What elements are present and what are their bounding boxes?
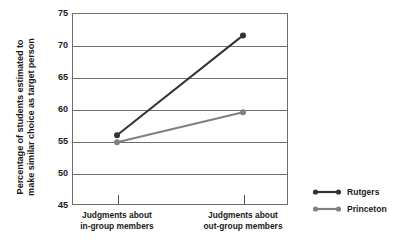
legend-item-rutgers[interactable]: Rutgers bbox=[312, 183, 400, 200]
legend-label-princeton: Princeton bbox=[347, 204, 387, 214]
series-line-rutgers bbox=[117, 35, 243, 135]
legend-line-marker-icon bbox=[312, 203, 342, 215]
legend-label-rutgers: Rutgers bbox=[347, 187, 379, 197]
y-axis-title: Percentage of students estimated to make… bbox=[9, 17, 43, 217]
x-axis-label-in-group-line-2: in-group members bbox=[57, 221, 177, 232]
x-axis-label-out-group: Judgments about out-group members bbox=[183, 210, 303, 232]
y-axis-tick-label-55: 55 bbox=[48, 137, 68, 146]
data-point-rutgers-0 bbox=[114, 132, 120, 138]
y-axis-title-line-2: make similar choice as target person bbox=[26, 38, 38, 196]
legend-line-marker-icon bbox=[312, 186, 342, 198]
x-axis-label-in-group-line-1: Judgments about bbox=[57, 210, 177, 221]
y-axis-tick-label-70: 70 bbox=[48, 41, 68, 50]
data-point-princeton-1 bbox=[240, 109, 246, 115]
y-axis-title-line-1: Percentage of students estimated to bbox=[15, 40, 27, 195]
y-axis-tick-label-65: 65 bbox=[48, 73, 68, 82]
y-axis-tick-label-75: 75 bbox=[48, 9, 68, 18]
data-series-layer bbox=[72, 13, 288, 205]
data-point-rutgers-1 bbox=[240, 32, 246, 38]
chart-figure: Percentage of students estimated to make… bbox=[0, 0, 402, 250]
y-axis-tick-label-45: 45 bbox=[48, 201, 68, 210]
x-axis-label-in-group: Judgments about in-group members bbox=[57, 210, 177, 232]
series-line-princeton bbox=[117, 112, 243, 142]
x-axis-label-out-group-line-1: Judgments about bbox=[183, 210, 303, 221]
data-point-princeton-0 bbox=[114, 139, 120, 145]
y-axis-tick-label-60: 60 bbox=[48, 105, 68, 114]
y-axis-tick-labels: 75706560555045 bbox=[46, 13, 68, 205]
y-axis-tick-label-50: 50 bbox=[48, 169, 68, 178]
chart-legend: Rutgers Princeton bbox=[312, 183, 400, 217]
x-axis-label-out-group-line-2: out-group members bbox=[183, 221, 303, 232]
legend-item-princeton[interactable]: Princeton bbox=[312, 200, 400, 217]
